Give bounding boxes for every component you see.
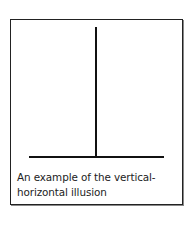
figure-caption: An example of the vertical- horizontal i… <box>17 170 182 200</box>
vertical-line <box>95 27 97 158</box>
caption-line-2: horizontal illusion <box>17 185 182 200</box>
caption-line-1: An example of the vertical- <box>17 170 182 185</box>
horizontal-line <box>29 156 164 158</box>
